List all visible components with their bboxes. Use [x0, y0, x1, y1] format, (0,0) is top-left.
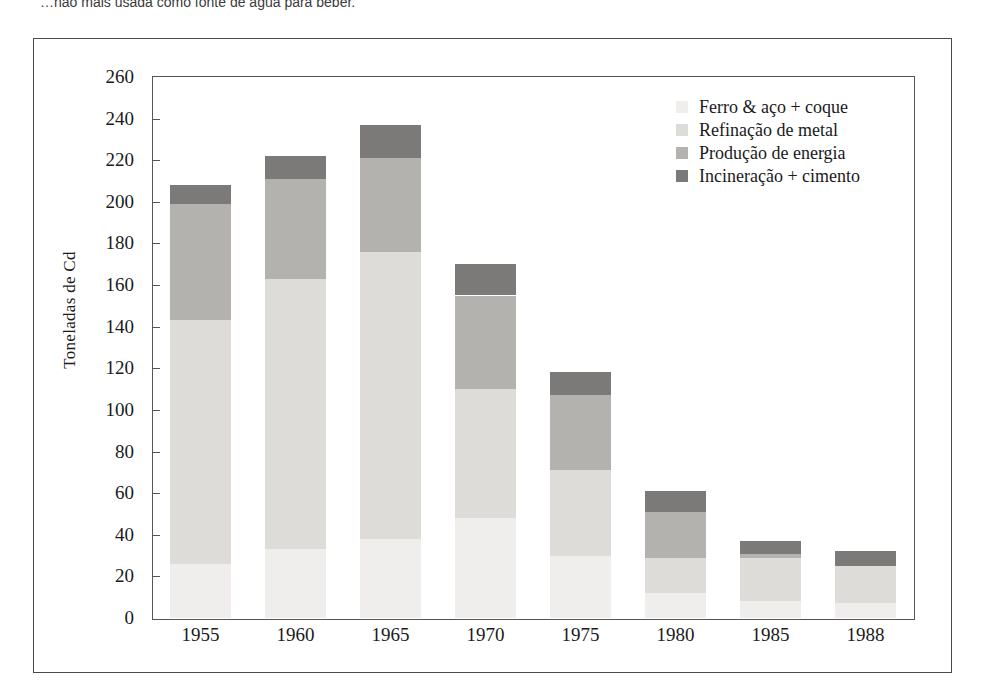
x-axis-tick-label: 1955 [161, 624, 241, 646]
bar-segment [455, 296, 516, 390]
y-axis-title: Toneladas de Cd [60, 210, 80, 410]
bar-segment [170, 185, 231, 204]
y-axis-tick-label: 140 [86, 320, 134, 334]
bar-stack [170, 185, 231, 618]
bar-stack [740, 541, 801, 618]
bar-segment [360, 539, 421, 618]
y-axis-tick-label: 160 [86, 278, 134, 292]
bar-segment [645, 558, 706, 593]
bar-segment [360, 125, 421, 158]
y-axis-tick-label: 20 [86, 569, 134, 583]
bar-segment [170, 204, 231, 321]
legend-swatch [676, 147, 688, 159]
y-axis-tick-label: 220 [86, 153, 134, 167]
bar-segment [835, 603, 896, 618]
legend-label: Incineração + cimento [699, 166, 860, 186]
bar-segment [265, 549, 326, 618]
x-axis-tick-label: 1960 [256, 624, 336, 646]
bar-stack [550, 372, 611, 618]
y-axis-tick-label: 60 [86, 486, 134, 500]
x-axis-tick-label: 1980 [636, 624, 716, 646]
y-axis-tick-label: 80 [86, 445, 134, 459]
bar-segment [740, 554, 801, 558]
y-axis-tick-label: 240 [86, 112, 134, 126]
bar-segment [360, 252, 421, 539]
legend-label: Refinação de metal [699, 120, 838, 140]
y-axis-tick-label: 200 [86, 195, 134, 209]
y-axis-tick-label: 120 [86, 361, 134, 375]
bar-segment [740, 541, 801, 553]
bar-stack [455, 264, 516, 618]
legend-item: Produção de energia [676, 142, 916, 164]
bar-stack [645, 491, 706, 618]
bar-segment [645, 593, 706, 618]
legend-label: Produção de energia [699, 143, 846, 163]
bar-segment [360, 158, 421, 252]
y-axis-tick-label: 100 [86, 403, 134, 417]
bar-segment [740, 601, 801, 618]
y-axis-tick-label: 40 [86, 528, 134, 542]
x-axis-tick-label: 1965 [351, 624, 431, 646]
x-axis-tick-label: 1985 [731, 624, 811, 646]
legend-item: Ferro & aço + coque [676, 96, 916, 118]
bar-segment [550, 395, 611, 470]
y-axis-tick-label: 180 [86, 236, 134, 250]
x-axis-tick-label: 1988 [826, 624, 906, 646]
bar-segment [455, 389, 516, 518]
legend-swatch [676, 101, 688, 113]
bar-segment [835, 566, 896, 603]
y-axis-tick-label: 0 [86, 611, 134, 625]
y-axis-tick-label: 260 [86, 70, 134, 84]
bar-stack [265, 156, 326, 618]
bar-segment [740, 558, 801, 602]
chart-legend: Ferro & aço + coqueRefinação de metalPro… [676, 96, 916, 188]
bar-segment [170, 320, 231, 563]
bar-segment [265, 156, 326, 179]
chart-canvas: Toneladas de Cd 020406080100120140160180… [0, 0, 985, 693]
legend-item: Refinação de metal [676, 119, 916, 141]
y-axis-tick-labels: 020406080100120140160180200220240260 [82, 0, 134, 693]
bar-stack [835, 551, 896, 618]
bar-segment [645, 491, 706, 512]
bar-stack [360, 125, 421, 618]
legend-label: Ferro & aço + coque [699, 97, 848, 117]
x-axis-tick-label: 1975 [541, 624, 621, 646]
bar-segment [550, 556, 611, 618]
legend-item: Incineração + cimento [676, 165, 916, 187]
bar-segment [550, 372, 611, 395]
bar-segment [265, 279, 326, 550]
bar-segment [455, 518, 516, 618]
bar-segment [645, 512, 706, 558]
bar-segment [835, 551, 896, 566]
bar-segment [550, 470, 611, 555]
bar-segment [455, 264, 516, 295]
bar-segment [265, 179, 326, 279]
x-axis-tick-label: 1970 [446, 624, 526, 646]
legend-swatch [676, 170, 688, 182]
bar-segment [170, 564, 231, 618]
legend-swatch [676, 124, 688, 136]
